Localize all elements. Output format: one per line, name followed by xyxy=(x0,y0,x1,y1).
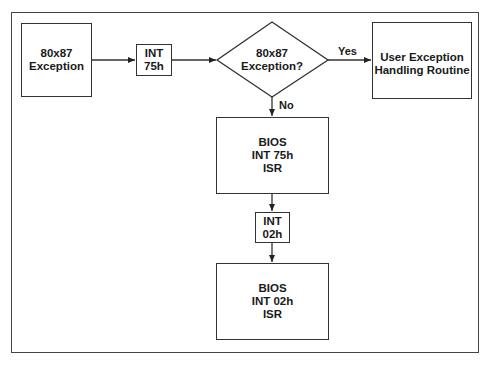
node-text: ISR xyxy=(263,308,282,321)
node-text: 75h xyxy=(144,60,164,73)
node-text: Handling Routine xyxy=(374,64,469,77)
node-text: 80x87 xyxy=(232,47,312,60)
node-text: INT xyxy=(263,215,282,228)
decision-text: 80x87 Exception? xyxy=(232,47,312,73)
node-text: BIOS xyxy=(258,282,286,295)
node-user-exception-routine: User Exception Handling Routine xyxy=(372,22,472,99)
node-int-75h: INT 75h xyxy=(136,44,172,76)
node-text: INT 75h xyxy=(252,149,294,162)
node-text: User Exception xyxy=(380,51,464,64)
node-text: Exception xyxy=(29,60,84,73)
no-label: No xyxy=(279,99,294,111)
node-bios-int-75h-isr: BIOS INT 75h ISR xyxy=(216,117,329,194)
node-text: INT xyxy=(145,47,164,60)
node-text: 02h xyxy=(263,228,283,241)
node-text: INT 02h xyxy=(252,295,294,308)
node-int-02h: INT 02h xyxy=(255,212,290,243)
node-text: Exception? xyxy=(232,60,312,73)
node-text: ISR xyxy=(263,162,282,175)
node-text: BIOS xyxy=(258,136,286,149)
yes-label: Yes xyxy=(338,45,357,57)
node-text: 80x87 xyxy=(41,47,73,60)
node-80x87-exception: 80x87 Exception xyxy=(21,23,92,97)
node-bios-int-02h-isr: BIOS INT 02h ISR xyxy=(216,263,329,340)
